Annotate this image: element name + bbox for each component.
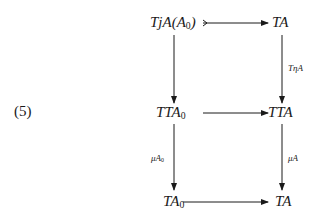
node-mid-right-main: TTA — [268, 104, 293, 120]
equation-number: (5) — [14, 104, 32, 119]
label-left-lower-sub: 0 — [161, 157, 164, 163]
node-bot-right: TA — [275, 194, 291, 209]
node-bot-left-sub: 0 — [179, 199, 184, 210]
label-left-lower-main: μA — [151, 153, 161, 163]
arrow-top-horizontal — [203, 20, 268, 26]
node-mid-left-main: TTA — [156, 104, 181, 120]
node-top-right: TA — [272, 15, 288, 30]
node-bot-right-main: TA — [275, 193, 291, 209]
node-bot-left-main: TA — [163, 193, 179, 209]
node-mid-left: TTA0 — [156, 105, 186, 121]
node-top-right-main: TA — [272, 14, 288, 30]
node-mid-right: TTA — [268, 105, 293, 120]
node-top-left: TjA(A0) — [150, 15, 196, 31]
label-left-lower: μA0 — [151, 154, 164, 164]
node-mid-left-sub: 0 — [181, 110, 186, 121]
node-top-left-main: TjA(A — [150, 14, 186, 30]
label-right-upper: TηA — [288, 64, 303, 73]
node-top-left-tail: ) — [191, 14, 196, 30]
node-bot-left: TA0 — [163, 194, 184, 210]
label-right-lower: μA — [288, 154, 298, 163]
